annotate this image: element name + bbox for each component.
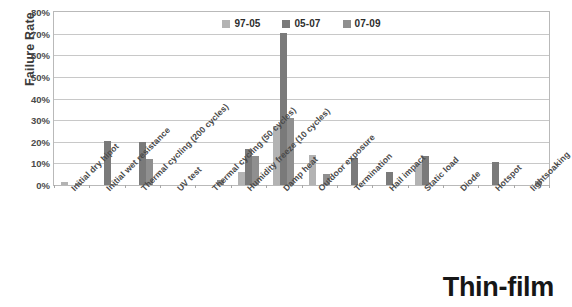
- plot-area: 97-0505-0707-09: [53, 11, 550, 186]
- y-axis-tick: 70%: [31, 28, 50, 39]
- x-axis-tick-labels: Initial dry hipotInitial wet resistanceT…: [53, 186, 550, 276]
- y-axis-tick: 60%: [31, 50, 50, 61]
- y-axis-tick: 20%: [31, 136, 50, 147]
- chart-annotation-thin-film: Thin-film: [443, 272, 554, 303]
- y-axis-tick: 40%: [31, 93, 50, 104]
- bar-group: [478, 12, 513, 185]
- y-axis-tick: 80%: [31, 7, 50, 18]
- y-axis-tick-labels: 0%10%20%30%40%50%60%70%80%: [14, 8, 50, 186]
- y-axis-tick: 0%: [36, 180, 50, 191]
- bar-group: [54, 12, 89, 185]
- y-axis-tick: 30%: [31, 115, 50, 126]
- bar-97-05[interactable]: [238, 172, 245, 185]
- bar-group: [195, 12, 230, 185]
- bar-97-05[interactable]: [61, 182, 68, 185]
- y-axis-tick: 10%: [31, 158, 50, 169]
- y-axis-tick: 50%: [31, 71, 50, 82]
- bar-group: [514, 12, 549, 185]
